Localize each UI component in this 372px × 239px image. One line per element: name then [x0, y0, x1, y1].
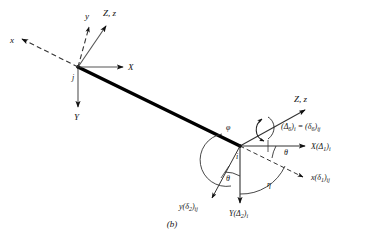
node-i-torsion-label: (Δ6)i = (δ6)ij [281, 122, 321, 132]
local-axes-at-node-j [22, 27, 89, 67]
figure-root: X Y Z, z y x j [0, 0, 372, 239]
theta-upper-arc [272, 146, 276, 158]
local-y-axis-j-label: y [84, 11, 89, 21]
global-axes-at-node-j [76, 26, 123, 107]
gx-sub-i: i [329, 146, 331, 152]
torsion-sub-ij: ij [317, 126, 321, 132]
torsion-equals: = (δ [296, 122, 312, 131]
gy-main: Y(Δ [229, 209, 241, 218]
global-x-axis-j-label: X [127, 62, 134, 72]
local-x-axis-j-label: x [9, 35, 14, 45]
global-z-axis-j-line [78, 26, 106, 67]
node-i-local-x-label: x(δ1)ij [310, 173, 330, 183]
node-j-label: j [71, 73, 75, 82]
torsion-rotation-arrow [256, 119, 264, 141]
node-i-marker [238, 144, 241, 147]
figure-caption: (b) [167, 219, 178, 229]
eta-arc [240, 166, 285, 194]
gx-main: X(Δ [310, 142, 324, 151]
node-i-global-x-label: X(Δ1)i [310, 142, 331, 152]
node-i-local-y-label: y(δ2)ij [178, 202, 198, 212]
theta-lower-angle-label: θ [226, 174, 230, 183]
lx-main: x(δ [310, 173, 321, 182]
node-i-label: i [236, 152, 238, 161]
lx-sub-ij: ij [327, 177, 331, 183]
global-z-axis-j-label: Z, z [103, 8, 117, 18]
theta-upper-angle-label: θ [284, 148, 288, 157]
phi-angle-label: φ [226, 123, 231, 132]
local-x-axis-j-line [22, 39, 78, 67]
ly-main: y(δ [178, 202, 189, 211]
beam-axes-diagram: X Y Z, z y x j [0, 0, 372, 239]
ly-sub-ij: ij [195, 206, 199, 212]
beam-member [78, 67, 240, 146]
node-i-global-y-label: Y(Δ2)i [229, 209, 248, 219]
eta-angle-label: η [267, 180, 271, 189]
local-y-axis-j-line [78, 27, 89, 67]
gy-sub-i: i [246, 213, 248, 219]
global-y-axis-j-label: Y [74, 112, 80, 122]
node-i-local-x-axis-line [240, 146, 303, 177]
node-i-z-axis-label: Z, z [294, 94, 308, 104]
